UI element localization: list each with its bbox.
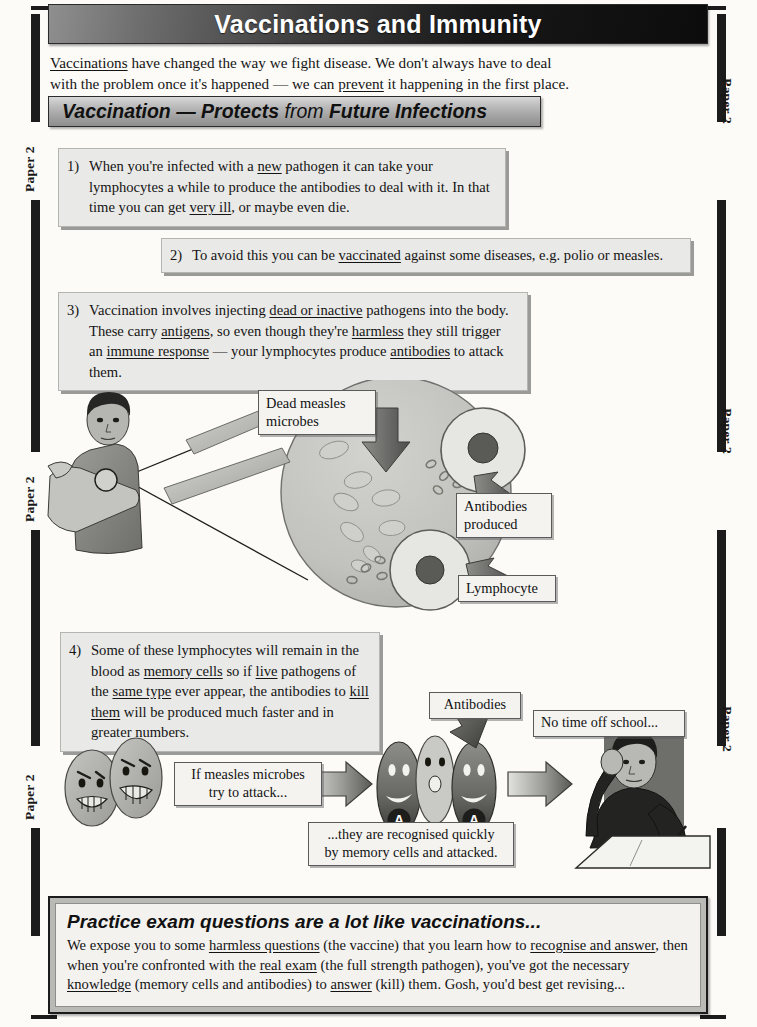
callout-recognised-quickly: ...they are recognised quickly by memory… xyxy=(308,822,514,866)
margin-label-paper-left-2: Paper 2 xyxy=(22,476,38,522)
callout-recognised-line1: ...they are recognised quickly xyxy=(327,826,494,842)
section-heading-part2: Protects xyxy=(201,100,279,122)
textbook-page: Paper 2 Paper 2 Paper 2 Paper 2 Paper 2 … xyxy=(0,0,757,1027)
point-text-3: Vaccination involves injecting dead or i… xyxy=(89,300,517,382)
section-heading-part3: from xyxy=(279,100,329,122)
margin-rail-left-3 xyxy=(31,530,40,746)
section-heading: Vaccination — Protects from Future Infec… xyxy=(62,100,487,123)
antibody-cell-right: A xyxy=(452,742,496,834)
page-title: Vaccinations and Immunity xyxy=(214,10,541,39)
margin-label-paper-right-1: Paper 2 xyxy=(719,78,735,124)
section-heading-part1: Vaccination xyxy=(62,100,171,122)
callout-dead-measles-microbes: Dead measles microbes xyxy=(258,390,376,435)
scared-microbe-middle xyxy=(416,736,454,824)
practice-exam-body: We expose you to some harmless questions… xyxy=(67,936,689,995)
callout-antibodies-line1: Antibodies xyxy=(464,498,527,514)
callout-dead-measles-line1: Dead measles xyxy=(266,395,346,411)
callout-antibodies-text: Antibodies xyxy=(444,696,506,712)
process-arrow-2 xyxy=(508,762,572,806)
callout-antibodies-line2: produced xyxy=(464,516,518,532)
vaccinated-person-figure xyxy=(48,392,142,554)
callout-measles-attack: If measles microbes try to attack... xyxy=(174,762,322,806)
callout-lymphocyte-label: Lymphocyte xyxy=(466,580,538,596)
vaccination-diagram-svg xyxy=(46,380,711,625)
section-heading-part4: Future Infections xyxy=(329,100,487,122)
callout-measles-attack-line1: If measles microbes xyxy=(191,766,304,782)
callout-dead-measles-line2: microbes xyxy=(266,413,319,429)
margin-label-paper-left-1: Paper 2 xyxy=(22,146,38,192)
intro-keyword-prevent: prevent xyxy=(338,75,384,92)
practice-exam-inner: Practice exam questions are a lot like v… xyxy=(55,903,701,1007)
callout-recognised-line2: by memory cells and attacked. xyxy=(325,844,498,860)
point-box-1: 1) When you're infected with a new patho… xyxy=(58,148,506,227)
point-box-3: 3) Vaccination involves injecting dead o… xyxy=(58,292,528,391)
page-title-banner: Vaccinations and Immunity xyxy=(48,4,708,44)
student-at-desk-figure xyxy=(576,732,710,868)
page-content: Vaccinations and Immunity Vaccinations h… xyxy=(46,0,711,1027)
callout-no-time-off-school: No time off school... xyxy=(533,710,685,737)
margin-label-paper-right-3: Paper 2 xyxy=(719,706,735,752)
intro-text-2: with the problem once it's happened — we… xyxy=(50,75,338,92)
intro-keyword-vaccinations: Vaccinations xyxy=(50,54,128,71)
magnify-line-bottom xyxy=(122,478,308,580)
intro-paragraph: Vaccinations have changed the way we fig… xyxy=(50,52,650,94)
point-box-2: 2) To avoid this you can be vaccinated a… xyxy=(161,238,691,273)
callout-antibodies-produced: Antibodies produced xyxy=(456,493,552,538)
callout-antibodies-label: Antibodies xyxy=(429,692,521,719)
practice-exam-panel: Practice exam questions are a lot like v… xyxy=(48,896,708,1014)
margin-rail-left-4 xyxy=(31,828,40,936)
intro-text-1: have changed the way we fight disease. W… xyxy=(128,54,552,71)
margin-rail-left-2 xyxy=(31,200,40,452)
margin-rail-left-1 xyxy=(31,14,40,122)
section-heading-banner: Vaccination — Protects from Future Infec… xyxy=(48,96,541,127)
margin-label-paper-right-2: Paper 2 xyxy=(719,408,735,454)
practice-exam-title: Practice exam questions are a lot like v… xyxy=(67,911,689,933)
callout-measles-attack-line2: try to attack... xyxy=(209,784,287,800)
angry-microbe-2 xyxy=(110,738,162,818)
point-text-1: When you're infected with a new pathogen… xyxy=(89,156,495,218)
point-number-3: 3) xyxy=(67,300,89,382)
margin-rail-right-4 xyxy=(717,828,726,936)
margin-label-paper-left-3: Paper 2 xyxy=(22,774,38,820)
callout-school-text: No time off school... xyxy=(541,714,658,730)
intro-text-3: it happening in the first place. xyxy=(384,75,569,92)
injection-site-marker xyxy=(95,469,117,491)
antibody-cell-left: A xyxy=(377,742,421,834)
immune-response-strip: A A xyxy=(46,700,711,875)
point-number-1: 1) xyxy=(67,156,89,218)
callout-lymphocyte: Lymphocyte xyxy=(458,575,556,602)
point-number-2: 2) xyxy=(170,245,192,266)
point-text-2: To avoid this you can be vaccinated agai… xyxy=(192,245,680,266)
section-heading-dash: — xyxy=(171,100,201,122)
vaccination-diagram: Dead measles microbes Antibodies produce… xyxy=(46,380,711,625)
